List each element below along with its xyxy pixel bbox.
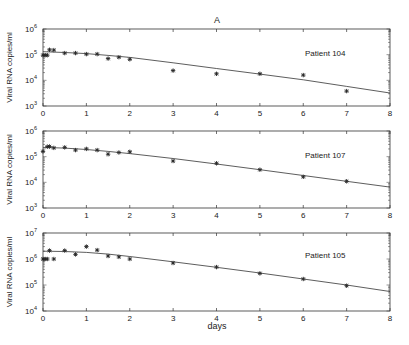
patient-annotation: Patient 104: [305, 49, 346, 58]
x-tick-label: 8: [388, 109, 393, 118]
plot-frame: [43, 29, 390, 106]
x-tick-label: 5: [258, 211, 263, 220]
x-tick-label: 7: [344, 314, 349, 323]
data-point: [45, 257, 49, 261]
x-tick-label: 6: [301, 211, 306, 220]
plot-frame: [43, 131, 390, 208]
x-tick-label: 1: [84, 211, 89, 220]
x-tick-label: 6: [301, 109, 306, 118]
y-tick-label: 105: [25, 49, 37, 60]
data-point: [62, 51, 66, 55]
data-point: [84, 147, 88, 151]
y-tick-label: 105: [25, 151, 37, 162]
y-axis-label: Viral RNA copies/ml: [5, 32, 14, 103]
y-tick-label: 104: [25, 176, 37, 187]
plot-frame: [43, 233, 390, 311]
data-point: [62, 145, 66, 149]
x-tick-label: 0: [41, 211, 46, 220]
panel-1: 012345678103104105106Viral RNA copies/ml…: [5, 23, 393, 118]
x-tick-label: 4: [214, 211, 219, 220]
x-tick-label: 3: [171, 314, 176, 323]
data-point: [117, 55, 121, 59]
x-tick-label: 5: [258, 109, 263, 118]
y-tick-label: 104: [25, 305, 37, 316]
y-axis-label: Viral RNA copies/ml: [5, 134, 14, 205]
data-point: [214, 72, 218, 76]
x-tick-label: 0: [41, 314, 46, 323]
patient-annotation: Patient 107: [305, 151, 346, 160]
x-tick-label: 7: [344, 211, 349, 220]
x-tick-label: 1: [84, 314, 89, 323]
y-tick-label: 106: [25, 23, 37, 34]
patient-annotation: Patient 105: [305, 251, 346, 260]
x-tick-label: 2: [128, 314, 133, 323]
data-point: [84, 244, 88, 248]
y-tick-label: 104: [25, 74, 37, 85]
y-tick-label: 107: [25, 227, 37, 238]
y-tick-label: 103: [25, 100, 37, 111]
data-point: [344, 89, 348, 93]
x-tick-label: 7: [344, 109, 349, 118]
panel-2: 012345678103104105106Viral RNA copies/ml…: [5, 125, 393, 220]
data-point: [214, 161, 218, 165]
y-tick-label: 105: [25, 279, 37, 290]
x-tick-label: 5: [258, 314, 263, 323]
x-axis-label: days: [207, 321, 227, 331]
data-point: [62, 248, 66, 252]
data-point: [171, 68, 175, 72]
y-tick-label: 106: [25, 125, 37, 136]
figure: A 012345678103104105106Viral RNA copies/…: [0, 0, 409, 345]
data-point: [344, 284, 348, 288]
x-tick-label: 8: [388, 314, 393, 323]
data-point: [41, 149, 45, 153]
data-point: [106, 152, 110, 156]
figure-title: A: [214, 15, 220, 25]
data-point: [47, 48, 51, 52]
panel-3: 012345678104105106107Viral RNA copies/ml…: [5, 227, 393, 323]
data-point: [95, 248, 99, 252]
data-point: [301, 73, 305, 77]
data-point: [128, 257, 132, 261]
data-point: [73, 252, 77, 256]
x-tick-label: 2: [128, 109, 133, 118]
data-point: [106, 56, 110, 60]
data-point: [47, 248, 51, 252]
data-point: [171, 159, 175, 163]
data-point: [52, 257, 56, 261]
x-tick-label: 2: [128, 211, 133, 220]
y-tick-label: 106: [25, 253, 37, 264]
x-tick-label: 8: [388, 211, 393, 220]
x-tick-label: 1: [84, 109, 89, 118]
y-tick-label: 103: [25, 202, 37, 213]
x-tick-label: 3: [171, 109, 176, 118]
x-tick-label: 0: [41, 109, 46, 118]
x-tick-label: 3: [171, 211, 176, 220]
x-tick-label: 4: [214, 109, 219, 118]
data-point: [52, 48, 56, 52]
data-point: [45, 53, 49, 57]
x-tick-label: 6: [301, 314, 306, 323]
panels: 012345678103104105106Viral RNA copies/ml…: [5, 23, 393, 323]
y-axis-label: Viral RNA copies/ml: [5, 237, 14, 308]
